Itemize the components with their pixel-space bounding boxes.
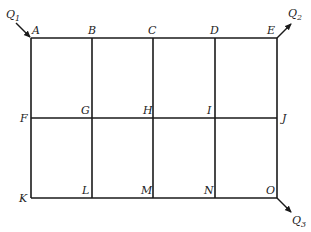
node-label-m: M [140, 184, 153, 197]
node-label-g: G [81, 104, 90, 117]
node-label-b: B [87, 24, 96, 37]
node-label-c: C [148, 24, 157, 37]
flow-label-q2: Q2 [288, 7, 302, 22]
node-label-o: O [266, 184, 275, 197]
outflow-arrow-icon [277, 198, 291, 212]
grid-lines [31, 38, 277, 198]
node-label-n: N [203, 184, 214, 197]
flow-label-q1: Q1 [6, 8, 20, 23]
node-label-k: K [18, 192, 28, 205]
inflow-arrow-icon [16, 23, 30, 37]
node-label-l: L [81, 184, 89, 197]
node-label-j: J [280, 112, 287, 125]
node-label-h: H [142, 104, 153, 117]
node-label-e: E [266, 24, 275, 37]
node-label-i: I [206, 104, 212, 117]
pipe-network-diagram: Q1 Q2 Q3 A B C D E F G H I J K L M N O [0, 0, 311, 232]
node-label-a: A [31, 24, 40, 37]
flow-label-q3: Q3 [292, 214, 306, 229]
node-label-d: D [209, 24, 219, 37]
outflow-arrow-icon [277, 24, 291, 38]
node-label-f: F [19, 112, 28, 125]
